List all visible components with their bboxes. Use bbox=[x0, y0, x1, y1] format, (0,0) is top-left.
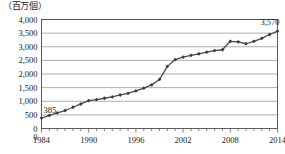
data-point-marker bbox=[205, 50, 209, 54]
data-point-marker bbox=[142, 86, 146, 90]
line-chart-svg: 05001,0001,5002,0002,5003,0003,5004,0001… bbox=[0, 0, 285, 154]
data-point-marker bbox=[197, 52, 201, 56]
data-series-line bbox=[42, 31, 278, 118]
data-point-marker bbox=[63, 109, 67, 113]
x-axis-tick-label: 1996 bbox=[127, 135, 144, 145]
y-axis-tick-label: 4,000 bbox=[18, 15, 37, 25]
data-point-marker bbox=[79, 102, 83, 106]
y-axis-tick-label: 2,000 bbox=[18, 69, 37, 79]
data-point-marker bbox=[276, 29, 280, 33]
x-axis-tick-label: 2002 bbox=[175, 135, 192, 145]
data-point-annotation: 385 bbox=[44, 105, 57, 115]
origin-zero-label: 0 bbox=[33, 132, 37, 142]
x-axis-tick-label: 1990 bbox=[80, 135, 97, 145]
y-axis-tick-label: 1,000 bbox=[18, 96, 37, 106]
y-axis-tick-label: 500 bbox=[25, 110, 38, 120]
data-point-marker bbox=[110, 95, 114, 99]
data-point-marker bbox=[189, 54, 193, 58]
chart-container: （百万個） 05001,0001,5002,0002,5003,0003,500… bbox=[0, 0, 285, 154]
data-point-marker bbox=[252, 39, 256, 43]
data-point-marker bbox=[126, 91, 130, 95]
data-point-marker bbox=[236, 40, 240, 44]
data-point-marker bbox=[103, 96, 107, 100]
y-axis-tick-label: 3,500 bbox=[18, 28, 37, 38]
data-point-marker bbox=[244, 42, 248, 46]
data-point-marker bbox=[40, 116, 44, 120]
x-axis-tick-label: 2014 bbox=[269, 135, 285, 145]
data-point-marker bbox=[87, 99, 91, 103]
y-axis-tick-label: 3,000 bbox=[18, 42, 37, 52]
data-point-marker bbox=[181, 55, 185, 59]
data-point-annotation: 3,570 bbox=[260, 17, 279, 27]
data-point-marker bbox=[213, 49, 217, 53]
x-axis-tick-label: 2008 bbox=[222, 135, 239, 145]
y-axis-tick-label: 2,500 bbox=[18, 55, 37, 65]
y-axis-tick-label: 1,500 bbox=[18, 83, 37, 93]
data-point-marker bbox=[134, 89, 138, 93]
data-point-marker bbox=[118, 93, 122, 97]
data-point-marker bbox=[71, 105, 75, 109]
plot-area: 05001,0001,5002,0002,5003,0003,5004,0001… bbox=[0, 0, 285, 154]
